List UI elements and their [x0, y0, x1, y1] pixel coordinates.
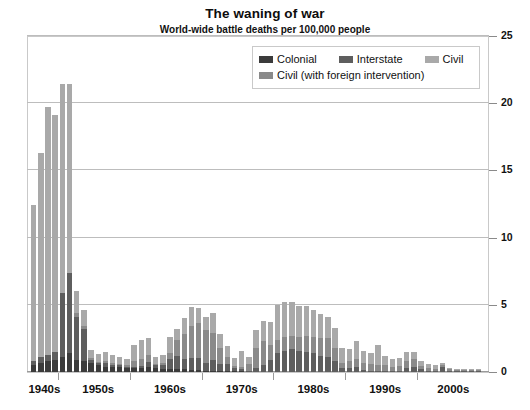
bar-segment [38, 363, 43, 372]
bar-group [375, 345, 380, 372]
bar-segment [347, 361, 352, 368]
x-tick-line-1970 [202, 373, 203, 380]
bar-segment [167, 359, 172, 370]
bar-segment [304, 352, 309, 372]
x-axis: 1940s1950s1960s1970s1980s1990s2000s [27, 373, 489, 407]
x-tick-line-1990 [345, 373, 346, 380]
bar-group [139, 340, 144, 372]
bar-segment [246, 364, 251, 371]
bar-segment [45, 355, 50, 362]
bar-segment [361, 363, 366, 370]
bar-segment [447, 371, 452, 372]
bar-segment [325, 357, 330, 372]
y-tick-line [489, 372, 497, 373]
bar-group [38, 153, 43, 372]
legend-item-civil-with-foreign-intervention[interactable]: Civil (with foreign intervention) [259, 68, 424, 82]
y-tick-line [489, 103, 497, 104]
bar-group [318, 314, 323, 372]
y-tick-line [489, 36, 497, 37]
bar-group [469, 369, 474, 372]
bar-segment [354, 341, 359, 358]
bar-segment [311, 353, 316, 372]
bar-segment [311, 310, 316, 337]
bar-segment [390, 359, 395, 367]
bar-segment [347, 349, 352, 361]
x-tick-label-1970s: 1970s [226, 383, 258, 395]
bar-segment [131, 368, 136, 372]
bar-segment [139, 340, 144, 359]
bar-segment [31, 365, 36, 372]
bar-group [52, 115, 57, 372]
legend-item-interstate[interactable]: Interstate [339, 52, 403, 66]
bar-segment [268, 322, 273, 345]
bar-segment [476, 371, 481, 372]
bar-segment [174, 369, 179, 372]
bar-segment [339, 368, 344, 372]
bar-segment [182, 318, 187, 334]
bar-segment [167, 337, 172, 353]
bar-segment [361, 351, 366, 363]
bar-segment [81, 310, 86, 326]
bar-segment [110, 367, 115, 372]
bar-segment [67, 273, 72, 354]
bar-group [382, 356, 387, 372]
bar-segment [139, 368, 144, 372]
bar-segment [318, 338, 323, 355]
bar-segment [210, 360, 215, 371]
chart-title: The waning of war [0, 6, 530, 21]
bar-segment [275, 340, 280, 353]
bar-segment [217, 334, 222, 347]
bar-segment [246, 371, 251, 372]
bar-group [246, 357, 251, 372]
bar-segment [182, 334, 187, 358]
bar-segment [67, 353, 72, 372]
y-tick-line [489, 238, 497, 239]
chart-legend: ColonialInterstateCivilCivil (with forei… [252, 46, 480, 89]
bar-segment [124, 368, 129, 372]
bar-group [225, 346, 230, 372]
legend-label: Colonial [277, 52, 317, 66]
bar-segment [96, 365, 101, 372]
bar-group [339, 348, 344, 372]
bar-segment [253, 348, 258, 368]
bar-segment [382, 356, 387, 365]
bar-group [96, 354, 101, 372]
bar-segment [296, 337, 301, 350]
bar-segment [174, 329, 179, 340]
bar-segment [217, 371, 222, 372]
legend-item-civil[interactable]: Civil [425, 52, 464, 66]
bar-segment [45, 361, 50, 372]
bar-group [146, 338, 151, 372]
bar-segment [160, 355, 165, 363]
bar-segment [268, 345, 273, 360]
bar-segment [397, 358, 402, 366]
bar-group [433, 365, 438, 372]
y-tick-label: 0 [501, 365, 507, 378]
bar-segment [433, 371, 438, 372]
bar-segment [375, 371, 380, 372]
bar-segment [52, 115, 57, 352]
bar-segment [261, 365, 266, 372]
bar-segment [325, 338, 330, 357]
bar-group [153, 357, 158, 372]
legend-item-colonial[interactable]: Colonial [259, 52, 317, 66]
bar-group [354, 341, 359, 372]
x-tick-line-2000 [417, 373, 418, 380]
bar-group [296, 306, 301, 372]
bar-segment [203, 317, 208, 330]
bar-group [332, 328, 337, 372]
bar-segment [74, 317, 79, 360]
bar-group [60, 84, 65, 372]
bar-segment [253, 368, 258, 372]
bar-segment [67, 84, 72, 272]
bar-segment [368, 364, 373, 371]
bar-segment [52, 360, 57, 372]
bar-group [88, 350, 93, 372]
y-tick-line [489, 305, 497, 306]
bar-segment [282, 351, 287, 373]
bar-segment [368, 371, 373, 372]
bar-segment [103, 367, 108, 372]
bar-segment [296, 351, 301, 373]
legend-label: Civil [443, 52, 464, 66]
y-tick-label: 20 [501, 96, 513, 109]
